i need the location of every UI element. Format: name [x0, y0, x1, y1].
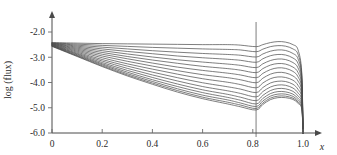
data-curve-2	[52, 43, 303, 133]
x-tick-label-3: 0.6	[197, 139, 209, 149]
x-tick-label-0: 0	[50, 139, 55, 149]
line-chart: 00.20.40.60.81.0-2.0-3.0-4.0-5.0-6.0 x l…	[0, 0, 337, 155]
x-tick-label-5: 1.0	[297, 139, 309, 149]
x-tick-label-2: 0.4	[146, 139, 158, 149]
y-tick-label-0: -2.0	[30, 27, 45, 37]
data-curve-1	[52, 42, 303, 133]
data-curve-3	[52, 43, 303, 133]
data-curve-12	[52, 45, 303, 133]
y-tick-label-3: -5.0	[30, 103, 45, 113]
x-axis-arrowhead	[315, 130, 322, 136]
y-tick-label-4: -6.0	[30, 128, 45, 138]
y-tick-label-1: -3.0	[30, 53, 45, 63]
data-curves-group	[52, 42, 303, 133]
x-axis-title: x	[319, 141, 325, 152]
x-tick-label-4: 0.8	[247, 139, 259, 149]
y-tick-label-2: -4.0	[30, 78, 45, 88]
x-tick-label-1: 0.2	[96, 139, 108, 149]
y-axis-arrowhead	[49, 11, 55, 18]
data-curve-13	[52, 46, 303, 133]
axes-group	[49, 11, 322, 136]
figure-container: 00.20.40.60.81.0-2.0-3.0-4.0-5.0-6.0 x l…	[0, 0, 337, 155]
y-axis-title: log (flux)	[2, 61, 14, 99]
